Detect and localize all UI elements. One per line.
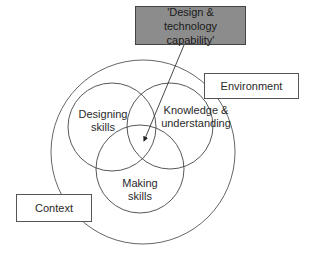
environment-box: Environment — [204, 73, 299, 99]
capability-line-2: capability' — [140, 33, 241, 47]
making-line-2: skills — [110, 190, 170, 203]
diagram-canvas: 'Design & technology capability' Environ… — [0, 0, 314, 255]
knowledge-line-2: understanding — [156, 117, 236, 130]
context-box: Context — [16, 194, 92, 222]
environment-label: Environment — [221, 80, 283, 92]
capability-box: 'Design & technology capability' — [135, 6, 246, 45]
knowledge-label: Knowledge & understanding — [156, 104, 236, 130]
knowledge-line-1: Knowledge & — [156, 104, 236, 117]
context-label: Context — [35, 202, 73, 214]
capability-line-1: 'Design & technology — [140, 5, 241, 33]
designing-line-1: Designing — [70, 108, 136, 121]
making-line-1: Making — [110, 177, 170, 190]
making-skills-label: Making skills — [110, 177, 170, 203]
designing-skills-label: Designing skills — [70, 108, 136, 134]
designing-line-2: skills — [70, 121, 136, 134]
